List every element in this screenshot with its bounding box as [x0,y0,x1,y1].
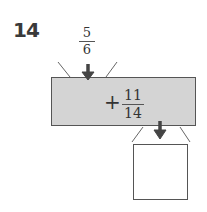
output-arrow-icon [154,121,166,139]
funnel-and-arrows [0,0,207,212]
input-arrow-icon [82,64,94,80]
